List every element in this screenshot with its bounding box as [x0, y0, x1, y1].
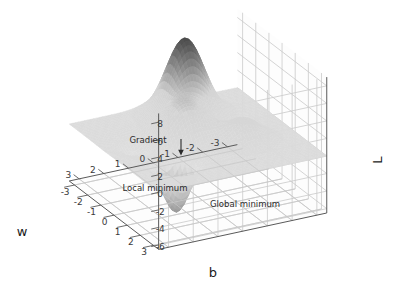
tick-w-3: 0 [140, 154, 146, 164]
annotation-gradient: Gradient [130, 135, 168, 145]
axis-title-b: b [209, 265, 217, 280]
tick-L-2: 4 [157, 154, 163, 164]
tick-L-6: -4 [156, 224, 165, 234]
annotation-local-minimum: Local minimum [122, 183, 187, 193]
tick-L-7: -6 [156, 242, 165, 252]
tick-b-5: 2 [128, 237, 134, 247]
tick-w-0: -3 [210, 138, 219, 148]
tick-w-6: 3 [65, 170, 71, 180]
tick-b-3: 0 [102, 217, 108, 227]
tick-b-1: -2 [74, 197, 83, 207]
tick-w-5: 2 [90, 165, 96, 175]
tick-L-0: 8 [157, 119, 163, 129]
tick-b-6: 3 [141, 247, 147, 257]
tick-w-4: 1 [115, 159, 121, 169]
figure-3d-surface-plot: -3-2-10123-3-2-1012386420-2-4-6 bwL Grad… [0, 0, 402, 298]
tick-L-5: -2 [156, 207, 165, 217]
tick-L-3: 2 [157, 172, 163, 182]
annotation-global-minimum: Global minimum [210, 199, 280, 209]
tick-w-1: -2 [186, 143, 195, 153]
tick-b-2: -1 [87, 207, 96, 217]
tick-b-4: 1 [115, 227, 121, 237]
tick-b-0: -3 [61, 187, 70, 197]
axis-title-L: L [370, 156, 385, 164]
axis-title-w: w [17, 224, 28, 239]
surface-plot-canvas: -3-2-10123-3-2-1012386420-2-4-6 bwL Grad… [0, 0, 402, 298]
